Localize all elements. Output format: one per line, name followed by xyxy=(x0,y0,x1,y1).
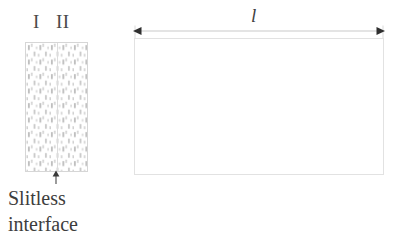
interface-pointer-arrow-icon xyxy=(50,170,62,184)
figure-container: I II Slitless interface xyxy=(0,0,404,246)
length-dimension-arrow-icon xyxy=(130,24,388,38)
caption-line-2: interface xyxy=(8,212,118,238)
specimen-caption: Slitless interface xyxy=(8,186,118,237)
domain-rectangle xyxy=(134,38,384,175)
region-label-II: II xyxy=(56,12,70,31)
caption-line-1: Slitless xyxy=(8,186,118,212)
length-label: l xyxy=(251,6,256,25)
specimen-block xyxy=(25,42,88,172)
slitless-interface-line xyxy=(57,43,58,171)
region-label-I: I xyxy=(33,12,40,31)
